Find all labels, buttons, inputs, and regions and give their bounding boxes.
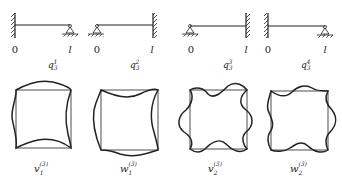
beam-left-label: 0	[265, 44, 271, 55]
beam-caption: q34	[301, 58, 311, 71]
wall-hatch	[264, 13, 268, 38]
beam-right-label: l	[244, 44, 247, 55]
beam-left-label: 0	[94, 44, 100, 55]
reference-square	[271, 91, 328, 150]
beam-4: 0 l q34	[264, 13, 333, 71]
beam-3: 0 l q33	[182, 13, 250, 71]
deformed-shape	[12, 81, 71, 148]
reference-square	[101, 90, 158, 150]
reference-square	[190, 90, 247, 149]
mode-caption: w1(3)	[120, 160, 138, 176]
mode-caption: v1(3)	[34, 160, 49, 176]
pin-support-right	[317, 26, 333, 38]
mode-shape-w2: w2(3)	[267, 86, 335, 176]
beam-right-label: l	[68, 44, 71, 55]
deformed-shape	[93, 89, 158, 155]
wall-hatch	[153, 13, 157, 38]
pin-support-right	[62, 25, 78, 37]
wall-hatch	[11, 13, 15, 38]
mode-caption: w2(3)	[290, 160, 308, 176]
mode-caption: v2(3)	[208, 160, 223, 176]
mode-shapes-figure: 0 l q31 0 l q32 0 l	[0, 0, 342, 184]
wall-hatch	[246, 13, 250, 38]
beam-right-label: l	[323, 44, 326, 55]
mode-shape-v2: v2(3)	[179, 83, 252, 176]
beam-caption: q33	[223, 58, 233, 71]
mode-shape-w1: w1(3)	[93, 89, 158, 176]
beam-left-label: 0	[188, 44, 194, 55]
beam-1: 0 l q31	[11, 13, 78, 71]
beam-caption: q32	[130, 58, 140, 71]
beam-right-label: l	[150, 44, 153, 55]
beam-2: 0 l q32	[88, 13, 157, 71]
beam-left-label: 0	[12, 44, 18, 55]
mode-shape-v1: v1(3)	[12, 81, 71, 176]
pin-support-left	[88, 25, 104, 37]
deformed-shape	[267, 86, 335, 152]
beam-caption: q31	[48, 58, 58, 71]
